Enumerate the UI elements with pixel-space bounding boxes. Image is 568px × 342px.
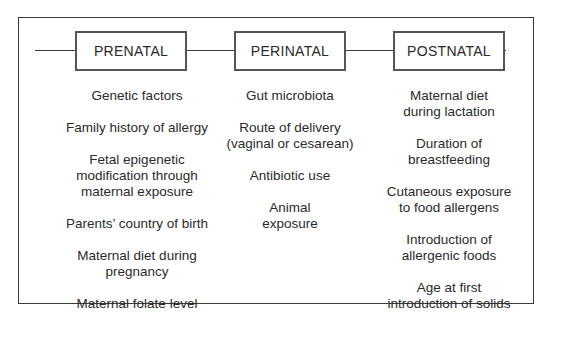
factor-item: Cutaneous exposure to food allergens — [374, 184, 524, 216]
factor-item: Family history of allergy — [52, 120, 222, 136]
factor-item: Route of delivery (vaginal or cesarean) — [215, 120, 365, 152]
factor-item: Introduction of allergenic foods — [374, 232, 524, 264]
factor-item: Parents’ country of birth — [52, 216, 222, 232]
factor-item: Maternal folate level — [52, 296, 222, 312]
factor-item: Duration of breastfeeding — [374, 136, 524, 168]
factor-item: Gut microbiota — [215, 88, 365, 104]
postnatal-factors: Maternal diet during lactation Duration … — [374, 88, 524, 328]
factor-item: Fetal epigenetic modification through ma… — [52, 152, 222, 200]
factor-item: Animal exposure — [215, 200, 365, 232]
phase-box-postnatal: POSTNATAL — [393, 31, 505, 71]
perinatal-factors: Gut microbiota Route of delivery (vagina… — [215, 88, 365, 248]
factor-item: Maternal diet during lactation — [374, 88, 524, 120]
prenatal-factors: Genetic factors Family history of allerg… — [52, 88, 222, 328]
factor-item: Age at first introduction of solids — [374, 280, 524, 312]
factor-item: Genetic factors — [52, 88, 222, 104]
factor-item: Antibiotic use — [215, 168, 365, 184]
phase-box-perinatal: PERINATAL — [234, 31, 346, 71]
phase-box-prenatal: PRENATAL — [75, 31, 187, 71]
factor-item: Maternal diet during pregnancy — [52, 248, 222, 280]
